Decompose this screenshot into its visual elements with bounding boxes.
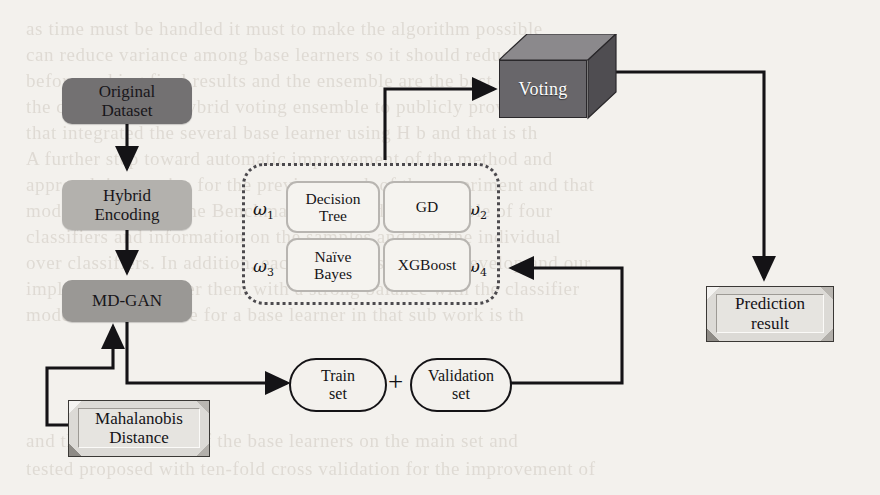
classifier-naive-bayes-label: Naïve Bayes — [314, 248, 352, 282]
classifier-xgboost-label: XGBoost — [398, 256, 457, 273]
classifier-naive-bayes[interactable]: Naïve Bayes — [286, 238, 380, 292]
classifier-decision-tree-label: Decision Tree — [305, 190, 360, 224]
node-train-set[interactable]: Train set — [289, 358, 387, 412]
node-md-gan[interactable]: MD-GAN — [62, 280, 192, 322]
node-prediction-result-label: Prediction result — [716, 294, 824, 333]
node-mahalanobis-distance-label: Mahalanobis Distance — [78, 408, 200, 448]
node-original-dataset[interactable]: Original Dataset — [62, 78, 192, 124]
watermark-line: as time must be handled it must to make … — [0, 18, 880, 40]
watermark-line: that integrated the several base learner… — [0, 122, 880, 144]
weight-omega-3: ω3 — [253, 256, 274, 279]
node-voting-label: Voting — [499, 60, 587, 118]
node-mahalanobis-distance[interactable]: Mahalanobis Distance — [68, 400, 210, 457]
classifier-gd-label: GD — [416, 198, 438, 215]
watermark-line: tested proposed with ten-fold cross vali… — [0, 458, 880, 480]
node-prediction-result[interactable]: Prediction result — [706, 286, 834, 342]
diagram-canvas: as time must be handled it must to make … — [0, 0, 880, 495]
classifier-xgboost[interactable]: XGBoost — [383, 238, 471, 292]
node-voting[interactable]: Voting — [499, 34, 617, 120]
node-hybrid-encoding-label: Hybrid Encoding — [88, 186, 165, 224]
classifier-gd[interactable]: GD — [383, 181, 471, 233]
node-validation-set[interactable]: Validation set — [410, 358, 512, 412]
node-md-gan-label: MD-GAN — [86, 291, 168, 310]
edge-ensemble-to-voting — [385, 89, 494, 160]
node-validation-set-label: Validation set — [428, 367, 494, 402]
edge-voting-to-prediction — [612, 72, 764, 278]
node-train-set-label: Train set — [321, 367, 355, 402]
watermark-line: can reduce variance among base learners … — [0, 44, 880, 66]
operator-plus: + — [388, 367, 403, 398]
edge-mdgan-to-trainset — [127, 322, 287, 383]
edge-validation-to-ensemble — [505, 268, 622, 383]
classifier-decision-tree[interactable]: Decision Tree — [286, 181, 380, 233]
node-original-dataset-label: Original Dataset — [93, 82, 162, 120]
weight-omega-1: ω1 — [253, 199, 274, 222]
node-hybrid-encoding[interactable]: Hybrid Encoding — [62, 180, 192, 230]
